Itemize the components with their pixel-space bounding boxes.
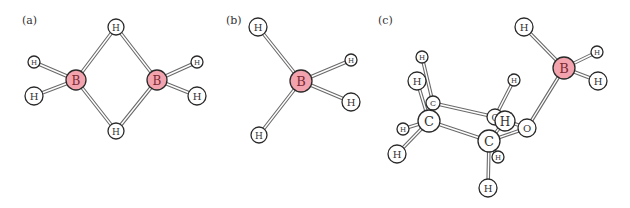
hydrogen-atom: H (479, 179, 497, 197)
carbon-atom: C (418, 110, 440, 132)
panel-label-a: (a) (22, 14, 37, 27)
atom-symbol: H (255, 131, 263, 141)
molecular-diagram: (a) HBBHHHHH (b) HBHHH (c) HBHHHHHCCHHCO… (0, 0, 630, 208)
atom-symbol: H (520, 22, 529, 33)
panel-label-b: (b) (226, 14, 242, 27)
atom-symbol: H (594, 76, 603, 87)
atom-symbol: H (112, 23, 120, 33)
panel-label-c: (c) (378, 14, 393, 27)
atom-symbol: H (348, 57, 354, 65)
atom-symbol: H (511, 77, 517, 85)
panel-a-diborane: (a) HBBHHHHH (22, 14, 206, 139)
oxygen-atom: O (518, 119, 536, 137)
hydrogen-atom: H (108, 123, 124, 139)
hydrogen-atom: H (251, 127, 267, 143)
atom-symbol: H (112, 127, 120, 137)
atom-symbol: H (495, 154, 501, 162)
atom-symbol: C (484, 134, 494, 149)
atom-symbol: H (31, 59, 37, 67)
hydrogen-atom: H (25, 87, 43, 105)
hydrogen-atom: H (416, 51, 428, 63)
boron-atom: B (290, 70, 312, 92)
hydrogen-atom: H (492, 151, 504, 163)
atom-symbol: H (194, 59, 200, 67)
atom-symbol: C (424, 114, 434, 129)
atoms: HBBHHHHH (25, 19, 206, 139)
atoms: HBHHHHHCCHHCOHCHH (388, 18, 607, 197)
atom-symbol: H (254, 22, 263, 33)
atom-symbol: O (523, 123, 531, 134)
hydrogen-atom: H (589, 72, 607, 90)
bond-line (433, 103, 495, 117)
atom-symbol: B (72, 74, 81, 88)
hydrogen-atom: H (397, 123, 409, 135)
boron-atom: B (147, 70, 167, 90)
hydrogen-atom: H (408, 72, 426, 90)
hydrogen-atom: H (108, 19, 124, 35)
atom-symbol: H (594, 49, 600, 57)
hydrogen-atom: H (388, 145, 406, 163)
atom-symbol: B (296, 74, 306, 89)
atom-symbol: B (153, 74, 162, 88)
boron-atom: B (66, 70, 86, 90)
hydrogen-atom: H (191, 56, 203, 68)
panel-b-borohydride: (b) HBHHH (226, 14, 360, 143)
hydrogen-atom: H (345, 54, 357, 66)
atom-symbol: H (30, 91, 39, 102)
hydrogen-atom: H (591, 46, 603, 58)
hydrogen-atom: H (495, 111, 515, 131)
atom-symbol: H (400, 126, 406, 134)
hydrogen-atom: H (249, 18, 267, 36)
atom-symbol: H (347, 97, 356, 108)
atom-symbol: H (393, 149, 402, 160)
atom-symbol: H (413, 76, 422, 87)
atom-symbol: B (559, 61, 569, 76)
atom-symbol: H (484, 183, 493, 194)
boron-atom: B (553, 57, 575, 79)
atom-symbol: H (193, 91, 202, 102)
atom-symbol: H (419, 54, 425, 62)
panel-c-borane-thf-complex: (c) HBHHHHHCCHHCOHCHH (378, 14, 607, 197)
hydrogen-atom: H (515, 18, 533, 36)
hydrogen-atom: H (342, 93, 360, 111)
carbon-atom: C (426, 96, 440, 110)
hydrogen-atom: H (28, 56, 40, 68)
bonds (34, 27, 197, 131)
hydrogen-atom: H (508, 74, 520, 86)
atom-symbol: H (500, 115, 510, 129)
atom-symbol: C (430, 99, 436, 108)
hydrogen-atom: H (188, 87, 206, 105)
carbon-atom: C (478, 130, 500, 152)
